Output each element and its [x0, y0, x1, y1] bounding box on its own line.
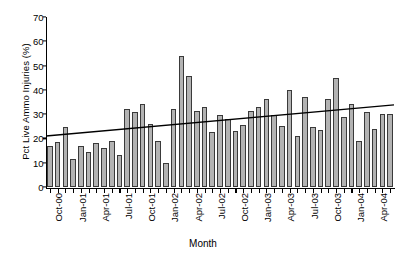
x-tick-label: Jan-04 [355, 193, 366, 222]
x-axis-tick-labels: Oct-00Jan-01Apr-01Jul-01Oct-01Jan-02Apr-… [46, 193, 394, 239]
x-tick-mark [127, 188, 128, 193]
x-tick-mark [375, 188, 376, 193]
x-tick-mark [259, 188, 260, 193]
x-tick-mark [321, 188, 322, 193]
x-tick-mark [197, 188, 198, 193]
x-axis-label: Month [0, 238, 406, 249]
x-tick-mark [313, 188, 314, 193]
x-tick-mark [143, 188, 144, 193]
x-tick-label: Jul-01 [123, 193, 134, 219]
y-tick-label: 0 [38, 182, 43, 193]
x-tick-mark [336, 188, 337, 193]
x-tick-mark [266, 188, 267, 193]
x-tick-mark [243, 188, 244, 193]
x-tick-mark [104, 188, 105, 193]
x-tick-mark [73, 188, 74, 193]
x-tick-mark [305, 188, 306, 193]
x-tick-label: Jan-03 [262, 193, 273, 222]
x-tick-mark [166, 188, 167, 193]
x-tick-mark [251, 188, 252, 193]
x-tick-label: Jul-03 [309, 193, 320, 219]
y-tick-label: 40 [33, 84, 44, 95]
x-tick-mark [112, 188, 113, 193]
x-tick-mark [212, 188, 213, 193]
x-tick-mark [205, 188, 206, 193]
x-tick-label: Apr-03 [285, 193, 296, 222]
x-tick-mark [367, 188, 368, 193]
x-tick-label: Apr-04 [378, 193, 389, 222]
y-tick-label: 60 [33, 36, 44, 47]
x-tick-mark [150, 188, 151, 193]
x-tick-label: Apr-01 [100, 193, 111, 222]
y-axis-label: Pct Live Ammo Injuries (%) [20, 17, 31, 187]
x-tick-label: Jan-02 [169, 193, 180, 222]
x-tick-mark [119, 188, 120, 193]
trendline [46, 17, 394, 187]
x-tick-mark [189, 188, 190, 193]
x-tick-label: Oct-01 [146, 193, 157, 222]
x-tick-mark [96, 188, 97, 193]
x-tick-mark [220, 188, 221, 193]
x-tick-mark [235, 188, 236, 193]
y-tick-label: 30 [33, 109, 44, 120]
y-tick-label: 10 [33, 157, 44, 168]
x-tick-mark [351, 188, 352, 193]
x-tick-label: Oct-03 [332, 193, 343, 222]
x-tick-mark [81, 188, 82, 193]
x-tick-label: Apr-02 [193, 193, 204, 222]
x-tick-mark [50, 188, 51, 193]
x-tick-label: Jul-02 [216, 193, 227, 219]
x-tick-mark [65, 188, 66, 193]
x-tick-mark [89, 188, 90, 193]
x-tick-mark [382, 188, 383, 193]
x-tick-mark [282, 188, 283, 193]
x-tick-label: Oct-02 [239, 193, 250, 222]
x-tick-mark [228, 188, 229, 193]
x-tick-mark [181, 188, 182, 193]
x-tick-mark [274, 188, 275, 193]
x-tick-mark [290, 188, 291, 193]
x-tick-mark [158, 188, 159, 193]
x-tick-mark [390, 188, 391, 193]
x-tick-mark [344, 188, 345, 193]
x-tick-mark [58, 188, 59, 193]
x-tick-mark [297, 188, 298, 193]
x-tick-mark [174, 188, 175, 193]
y-tick-label: 70 [33, 12, 44, 23]
x-tick-mark [135, 188, 136, 193]
plot-area: 010203040506070 [46, 17, 394, 187]
x-tick-label: Oct-00 [53, 193, 64, 222]
y-tick-label: 50 [33, 60, 44, 71]
x-tick-mark [359, 188, 360, 193]
y-tick-label: 20 [33, 133, 44, 144]
x-tick-mark [328, 188, 329, 193]
x-tick-label: Jan-01 [77, 193, 88, 222]
chart-figure: Pct Live Ammo Injuries (%) 0102030405060… [0, 0, 406, 257]
